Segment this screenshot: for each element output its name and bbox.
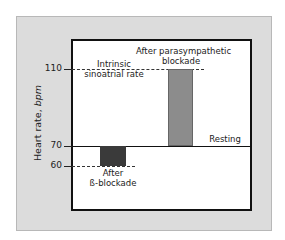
- y-tick-60: 60: [32, 160, 62, 170]
- annotation-intrinsic-line1: Intrinsic: [84, 59, 144, 69]
- annotation-parasympathetic-blockade: After parasympathetic blockade: [136, 46, 226, 66]
- annotation-resting: Resting: [205, 134, 245, 144]
- annotation-parasym-line1: After parasympathetic: [136, 46, 226, 56]
- annotation-beta-line1: After: [88, 168, 138, 178]
- annotation-intrinsic-rate: Intrinsic sinoatrial rate: [84, 59, 144, 79]
- y-tick-mark-110: [64, 69, 72, 70]
- y-tick-mark-70: [64, 146, 72, 147]
- annotation-parasym-line2: blockade: [136, 56, 226, 66]
- y-axis-label-main: Heart rate,: [32, 106, 43, 161]
- resting-line: [72, 146, 251, 147]
- y-tick-mark-60: [64, 166, 72, 167]
- annotation-beta-line2: ß-blockade: [88, 178, 138, 188]
- y-tick-70: 70: [32, 140, 62, 150]
- bar-after-parasympathetic-blockade: [168, 69, 193, 146]
- y-tick-110: 110: [32, 63, 62, 73]
- y-axis-label-unit: bpm: [32, 85, 43, 106]
- bar-after-beta-blockade: [100, 146, 126, 166]
- annotation-intrinsic-line2: sinoatrial rate: [84, 69, 144, 79]
- beta-blockade-level-line: [72, 166, 135, 167]
- annotation-beta-blockade: After ß-blockade: [88, 168, 138, 188]
